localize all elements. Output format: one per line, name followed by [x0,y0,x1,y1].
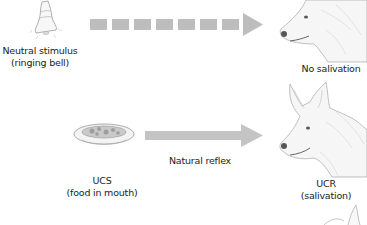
neutral-stimulus-title: Neutral stimulus [0,45,80,57]
food-bowl-icon [72,120,136,150]
ucs-label: UCS (food in mouth) [62,175,142,199]
ucr-label: UCR (salivation) [290,178,362,202]
ucs-title: UCS [62,175,142,187]
dog-head-icon [276,82,367,177]
dog-ears-partial-icon [320,205,367,225]
ucs-subtitle: (food in mouth) [62,187,142,199]
solid-arrow [145,124,265,148]
neutral-stimulus-subtitle: (ringing bell) [0,57,80,69]
ucr-subtitle: (salivation) [290,190,362,202]
bell-icon [28,0,68,40]
dashed-arrow [90,12,265,37]
natural-reflex-label: Natural reflex [155,155,245,167]
no-salivation-label: No salivation [295,63,367,75]
ucr-title: UCR [290,178,362,190]
dog-head-icon [276,0,367,62]
neutral-stimulus-label: Neutral stimulus (ringing bell) [0,45,80,69]
